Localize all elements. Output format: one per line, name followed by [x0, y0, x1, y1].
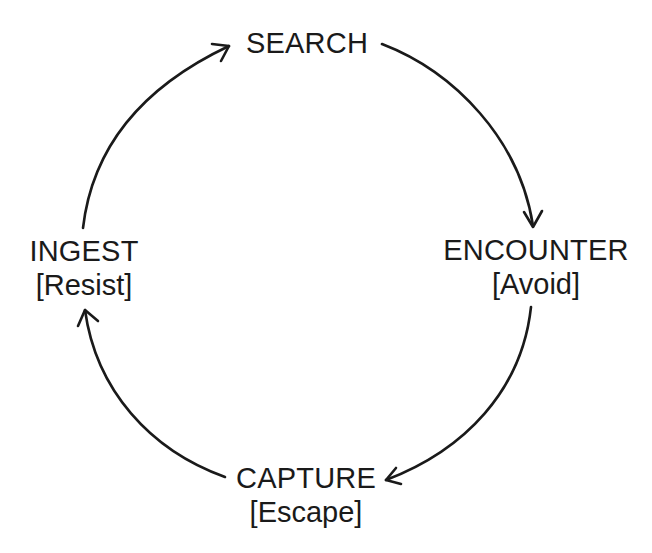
node-encounter-label: ENCOUNTER	[436, 236, 636, 265]
node-capture-label: CAPTURE	[226, 464, 386, 493]
node-ingest-action: [Resist]	[20, 271, 148, 300]
arrow-encounter-to-capture	[386, 307, 531, 484]
node-encounter-action: [Avoid]	[436, 270, 636, 299]
predation-cycle-diagram: SEARCH ENCOUNTER [Avoid] CAPTURE [Escape…	[0, 0, 652, 553]
arrow-capture-to-ingest	[78, 310, 225, 477]
arrow-ingest-to-search	[83, 44, 229, 228]
node-ingest: INGEST [Resist]	[20, 237, 148, 300]
arrow-search-to-encounter	[382, 44, 542, 227]
node-search: SEARCH	[232, 29, 382, 58]
node-encounter: ENCOUNTER [Avoid]	[436, 236, 636, 299]
node-search-label: SEARCH	[232, 29, 382, 58]
node-capture-action: [Escape]	[226, 498, 386, 527]
node-capture: CAPTURE [Escape]	[226, 464, 386, 527]
node-ingest-label: INGEST	[20, 237, 148, 266]
